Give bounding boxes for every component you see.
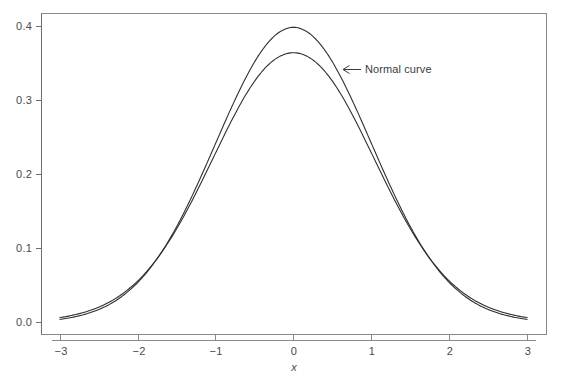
x-tick-label-0: −3 [55,345,68,357]
data-curves [60,27,527,319]
x-axis-ticks [61,335,528,341]
x-tick-label-3: 0 [291,345,297,357]
annotation-arrow-icon [343,66,361,74]
normal-distribution-plot [0,0,567,378]
x-tick-label-4: 1 [369,345,375,357]
x-tick-label-6: 3 [525,345,531,357]
curve-flatter [60,53,527,318]
x-axis-title: x [291,361,297,373]
y-axis-ticks [36,27,42,323]
x-tick-label-5: 2 [447,345,453,357]
y-tick-label-2: 0.2 [0,168,32,180]
chart-figure: 0.4 0.3 0.2 0.1 0.0 −3 −2 −1 0 1 2 3 x N… [0,0,567,378]
curve-normal [60,27,527,319]
y-tick-label-4: 0.0 [0,316,32,328]
y-tick-label-1: 0.3 [0,94,32,106]
annotation-label-normal-curve: Normal curve [365,63,432,75]
plot-frame [42,14,547,335]
x-tick-label-1: −2 [133,345,146,357]
x-tick-label-2: −1 [210,345,223,357]
y-tick-label-3: 0.1 [0,242,32,254]
y-tick-label-0: 0.4 [0,20,32,32]
